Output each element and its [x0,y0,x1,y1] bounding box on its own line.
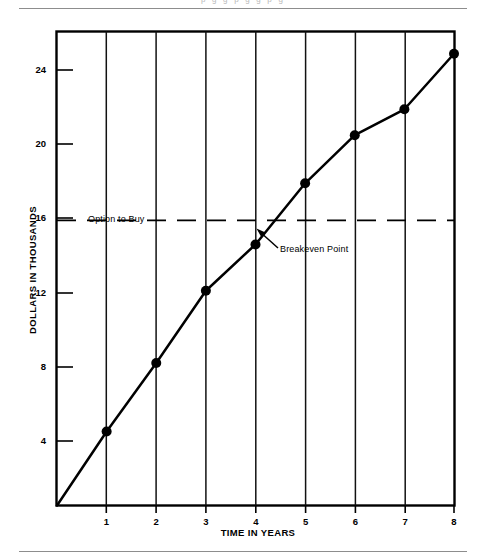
annotation-option-to-buy: Option to Buy [88,214,144,224]
x-axis-title: TIME IN YEARS [0,527,486,538]
ytick-label-4: 4 [24,435,46,446]
xtick-label-3: 3 [197,516,215,527]
xtick-label-6: 6 [346,516,364,527]
x-axis-ticks [106,506,454,513]
xtick-label-7: 7 [396,516,414,527]
line-chart-figure: 24 20 16 12 8 4 1 2 3 4 5 6 7 8 DOLLARS … [0,0,486,558]
data-point-year-5 [300,178,310,188]
data-point-year-7 [399,104,409,114]
xtick-label-8: 8 [445,516,463,527]
ytick-label-24: 24 [24,64,46,75]
data-point-year-8 [449,49,459,59]
xtick-label-1: 1 [97,516,115,527]
y-axis-ticks [57,70,73,441]
ytick-label-20: 20 [24,138,46,149]
xtick-label-4: 4 [247,516,265,527]
data-point-year-1 [102,426,112,436]
data-point-year-3 [201,286,211,296]
data-point-year-4 [251,239,261,249]
data-point-year-2 [151,358,161,368]
data-point-year-6 [350,130,360,140]
xtick-label-5: 5 [297,516,315,527]
xtick-label-2: 2 [147,516,165,527]
y-axis-title: DOLLARS IN THOUSANDS [27,175,38,365]
page-rule-bottom [19,551,467,552]
annotation-breakeven-point: Breakeven Point [280,244,348,254]
vertical-gridlines [106,32,405,506]
chart-canvas [0,0,486,558]
